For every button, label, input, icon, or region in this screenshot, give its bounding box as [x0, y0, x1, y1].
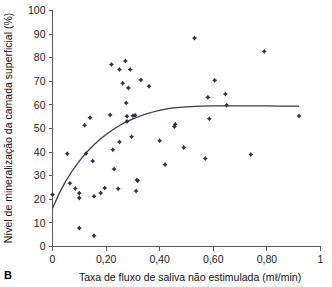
- y-tick-label: 60: [34, 99, 46, 111]
- y-tick-label: 50: [34, 122, 46, 134]
- x-tick-label: 1: [318, 253, 324, 265]
- y-tick-label: 20: [34, 193, 46, 205]
- y-tick-label: 30: [34, 169, 46, 181]
- x-tick-label: 0,20: [96, 253, 117, 265]
- scatter-plot-figure: 0102030405060708090100 00,200,400,600,80…: [0, 0, 332, 287]
- x-tick-label: 0,40: [149, 253, 170, 265]
- y-tick-label: 40: [34, 146, 46, 158]
- panel-label: B: [4, 269, 12, 281]
- y-tick-label: 80: [34, 51, 46, 63]
- y-tick-label: 100: [28, 4, 46, 16]
- y-tick-label: 90: [34, 28, 46, 40]
- y-tick-label: 70: [34, 75, 46, 87]
- y-axis-title: Nível de mineralização da camada superfi…: [2, 13, 14, 244]
- y-tick-label: 0: [40, 240, 46, 252]
- x-tick-label: 0,60: [203, 253, 224, 265]
- plot-background: [0, 0, 332, 287]
- x-tick-label: 0: [50, 253, 56, 265]
- y-tick-label: 10: [34, 217, 46, 229]
- x-tick-label: 0,80: [257, 253, 278, 265]
- x-axis-title: Taxa de fluxo de saliva não estimulada (…: [79, 271, 301, 283]
